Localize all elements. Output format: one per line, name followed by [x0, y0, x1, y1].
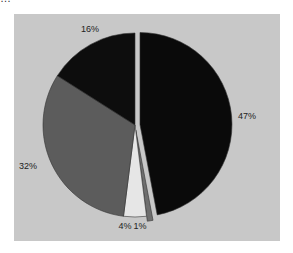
slice-label: 47%	[238, 111, 256, 121]
slice-label: 4%	[118, 221, 131, 231]
pie-chart	[0, 0, 293, 253]
slice-label: 16%	[81, 24, 99, 34]
slice-label: 32%	[19, 161, 37, 171]
pie-slice	[140, 33, 232, 215]
slice-label: 1%	[133, 221, 146, 231]
